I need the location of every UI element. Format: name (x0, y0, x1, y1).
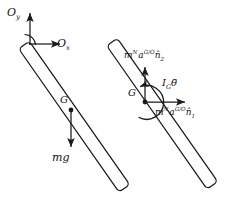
x-axis-label: Ox (57, 38, 70, 49)
center-of-mass-label-left: G (60, 95, 68, 105)
force-label-n2: mN aG/On̂2 (124, 51, 164, 60)
physics-figure: Oy Ox G mg mN aG/On̂2 IGθ̈ mN aG/On̂1 G (0, 0, 239, 202)
origin-axes (25, 13, 61, 45)
force-label-n1: mN aG/On̂1 (155, 108, 195, 117)
weight-label: mg (52, 152, 69, 163)
figure-canvas (0, 0, 239, 202)
left-rod (19, 41, 130, 192)
center-of-mass-label-right: G (128, 88, 136, 98)
moment-label: IGθ̈ (162, 78, 177, 88)
y-axis-label: Oy (7, 7, 20, 18)
